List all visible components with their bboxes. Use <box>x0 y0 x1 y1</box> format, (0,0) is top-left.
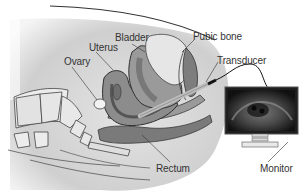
label-transducer: Transducer <box>217 55 266 66</box>
label-pubic-bone: Pubic bone <box>193 31 242 42</box>
monitor <box>225 87 298 147</box>
anatomy-illustration <box>0 0 304 194</box>
label-rectum: Rectum <box>156 163 190 174</box>
ultrasound-anatomy-diagram: Bladder Uterus Ovary Pubic bone Transduc… <box>0 0 304 194</box>
label-monitor: Monitor <box>260 163 293 174</box>
ovary <box>94 99 106 109</box>
label-ovary: Ovary <box>64 56 90 67</box>
label-bladder: Bladder <box>115 32 149 43</box>
label-uterus: Uterus <box>89 42 118 53</box>
